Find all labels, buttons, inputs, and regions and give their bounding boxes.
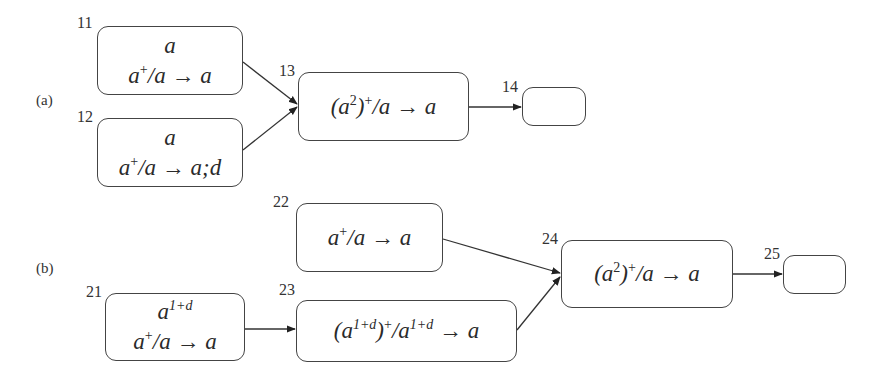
edge-12-13 bbox=[243, 107, 297, 150]
node-21-line-1: a1+d bbox=[158, 297, 193, 327]
node-number-21: 21 bbox=[86, 283, 102, 301]
node-number-11: 11 bbox=[77, 14, 92, 32]
node-23: (a1+d)+/a1+d → a bbox=[296, 300, 517, 362]
node-13-line-1: (a2)+/a → a bbox=[331, 92, 437, 122]
node-number-22: 22 bbox=[273, 193, 289, 211]
part-b-label: (b) bbox=[36, 260, 54, 277]
node-12-line-1: a bbox=[164, 123, 176, 153]
node-11-line-1: a bbox=[164, 31, 176, 61]
node-23-line-1: (a1+d)+/a1+d → a bbox=[334, 316, 480, 346]
node-22: a+/a → a bbox=[296, 203, 443, 272]
node-number-24: 24 bbox=[542, 230, 558, 248]
node-13: (a2)+/a → a bbox=[298, 72, 469, 141]
node-number-25: 25 bbox=[764, 245, 780, 263]
node-25 bbox=[783, 255, 846, 294]
node-24: (a2)+/a → a bbox=[561, 240, 733, 308]
node-11-line-2: a+/a → a bbox=[128, 61, 211, 91]
node-number-12: 12 bbox=[77, 108, 93, 126]
node-11: a a+/a → a bbox=[97, 26, 243, 95]
node-number-13: 13 bbox=[279, 62, 295, 80]
node-number-14: 14 bbox=[502, 78, 518, 96]
node-12: a a+/a → a;d bbox=[97, 118, 243, 187]
node-14 bbox=[522, 87, 586, 126]
node-12-line-2: a+/a → a;d bbox=[119, 153, 221, 183]
node-21: a1+d a+/a → a bbox=[105, 293, 245, 361]
node-number-23: 23 bbox=[279, 281, 295, 299]
node-22-line-1: a+/a → a bbox=[328, 223, 411, 253]
node-24-line-1: (a2)+/a → a bbox=[594, 259, 700, 289]
node-21-line-2: a+/a → a bbox=[133, 327, 216, 357]
part-a-label: (a) bbox=[36, 92, 53, 109]
edge-23-24 bbox=[517, 277, 560, 330]
